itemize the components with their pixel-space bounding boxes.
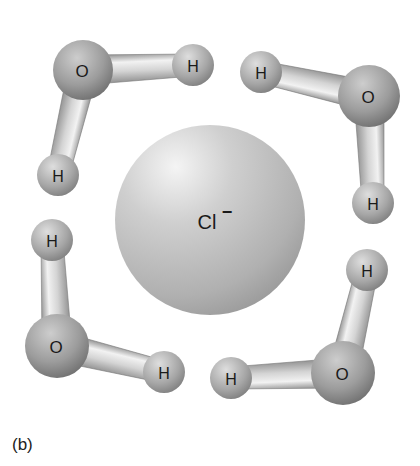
svg-text:H: H: [225, 371, 237, 388]
water-top-left-hydrogen-2: H: [37, 154, 79, 196]
water-bottom-right-hydrogen-1: H: [346, 249, 388, 291]
chloride-hydration-diagram: OHHOHHOHHOHH Cl−: [0, 0, 420, 466]
svg-text:H: H: [361, 263, 373, 280]
svg-text:H: H: [187, 58, 199, 75]
chloride-ion: Cl−: [115, 125, 305, 315]
water-bottom-left-hydrogen-1: H: [31, 219, 73, 261]
water-bottom-right-oxygen: O: [311, 341, 375, 405]
charge-label: −: [222, 202, 233, 222]
water-top-right-hydrogen-2: H: [352, 182, 394, 224]
water-top-left-hydrogen-1: H: [172, 44, 214, 86]
svg-text:H: H: [52, 168, 64, 185]
water-top-left-oxygen: O: [53, 40, 113, 100]
water-top-right-oxygen: O: [338, 65, 400, 127]
svg-text:H: H: [158, 365, 170, 382]
water-top-right-hydrogen-1: H: [240, 51, 282, 93]
water-bottom-right-hydrogen-2: H: [210, 357, 252, 399]
svg-text:O: O: [361, 88, 374, 107]
water-bottom-left-hydrogen-2: H: [143, 351, 185, 393]
svg-text:H: H: [46, 233, 58, 250]
svg-text:O: O: [75, 62, 88, 81]
svg-text:H: H: [367, 196, 379, 213]
water-bottom-left-oxygen: O: [25, 314, 89, 378]
svg-text:O: O: [335, 365, 348, 384]
chloride-label: Cl: [198, 211, 217, 233]
figure-caption: (b): [12, 435, 33, 455]
svg-text:H: H: [255, 65, 267, 82]
svg-text:O: O: [49, 338, 62, 357]
